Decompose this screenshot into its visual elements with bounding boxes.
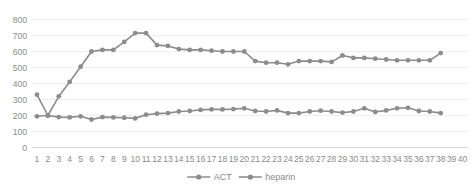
data-point-marker (89, 49, 94, 54)
x-axis-tick-label: 5 (78, 154, 83, 164)
data-point-marker (242, 49, 247, 54)
data-point-marker (35, 114, 40, 119)
data-point-marker (427, 109, 432, 114)
line-chart: 0100200300400500600700800 12345678910111… (0, 0, 476, 194)
data-point-marker (220, 49, 225, 54)
data-point-marker (111, 48, 116, 53)
x-axis-tick-label: 12 (152, 154, 162, 164)
x-axis-tick-label: 34 (392, 154, 402, 164)
data-point-marker (133, 116, 138, 121)
x-axis-tick-label: 15 (185, 154, 195, 164)
x-axis-tick-label: 26 (305, 154, 315, 164)
data-point-marker (406, 58, 411, 63)
series-line (37, 33, 441, 115)
data-point-marker (220, 107, 225, 112)
x-axis-tick-label: 18 (218, 154, 228, 164)
data-point-marker (122, 115, 127, 120)
x-axis-tick-label: 1 (35, 154, 40, 164)
data-point-marker (45, 113, 50, 118)
y-axis-tick-label: 700 (13, 31, 27, 41)
data-point-marker (231, 107, 236, 112)
series-heparin (35, 105, 444, 121)
gridlines (32, 20, 469, 148)
x-axis-tick-label: 23 (272, 154, 282, 164)
data-point-marker (438, 51, 443, 56)
data-point-marker (406, 105, 411, 110)
data-point-marker (427, 58, 432, 63)
data-point-marker (89, 117, 94, 122)
series-line (37, 108, 441, 120)
data-point-marker (187, 109, 192, 114)
legend-marker-icon (196, 174, 201, 179)
x-axis-tick-label: 38 (436, 154, 446, 164)
data-point-marker (329, 109, 334, 114)
data-point-marker (416, 58, 421, 63)
data-point-marker (133, 31, 138, 36)
x-axis-tick-label: 14 (174, 154, 184, 164)
data-point-marker (384, 57, 389, 62)
x-axis-tick-label: 16 (196, 154, 206, 164)
series-act (35, 31, 444, 118)
data-point-marker (155, 43, 160, 48)
data-point-marker (318, 59, 323, 64)
y-axis-tick-labels: 0100200300400500600700800 (13, 15, 27, 153)
data-point-marker (176, 109, 181, 114)
x-axis-tick-label: 6 (89, 154, 94, 164)
data-point-marker (166, 111, 171, 116)
data-point-marker (340, 110, 345, 115)
x-axis-tick-label: 33 (381, 154, 391, 164)
y-axis-tick-label: 600 (13, 47, 27, 57)
x-axis-tick-label: 7 (100, 154, 105, 164)
x-axis-tick-label: 32 (371, 154, 381, 164)
data-point-marker (187, 48, 192, 53)
data-point-marker (307, 59, 312, 64)
x-axis-tick-label: 19 (229, 154, 239, 164)
legend-item-heparin[interactable]: heparin (239, 172, 295, 182)
x-axis-tick-label: 39 (447, 154, 457, 164)
data-point-marker (155, 111, 160, 116)
x-axis-tick-labels: 1234567891011121314151617181920212223242… (35, 154, 468, 164)
x-axis-tick-label: 25 (294, 154, 304, 164)
y-axis-tick-label: 500 (13, 63, 27, 73)
x-axis-tick-label: 2 (46, 154, 51, 164)
data-point-marker (296, 59, 301, 64)
data-point-marker (286, 62, 291, 67)
data-point-marker (166, 44, 171, 49)
x-axis-tick-label: 8 (111, 154, 116, 164)
x-axis-tick-label: 36 (414, 154, 424, 164)
x-axis-tick-label: 9 (122, 154, 127, 164)
data-point-marker (307, 109, 312, 114)
x-axis-tick-label: 4 (67, 154, 72, 164)
data-point-marker (144, 112, 149, 117)
legend-label: heparin (265, 172, 295, 182)
legend-item-act[interactable]: ACT (188, 172, 233, 182)
data-point-marker (438, 111, 443, 116)
data-point-marker (122, 40, 127, 45)
data-point-marker (231, 49, 236, 54)
x-axis-tick-label: 21 (250, 154, 260, 164)
x-axis-tick-label: 24 (283, 154, 293, 164)
y-axis-tick-label: 400 (13, 79, 27, 89)
x-axis-tick-label: 37 (425, 154, 435, 164)
data-point-marker (264, 109, 269, 114)
data-point-marker (318, 108, 323, 113)
y-axis-tick-label: 300 (13, 95, 27, 105)
x-axis-tick-label: 28 (327, 154, 337, 164)
y-axis-tick-label: 100 (13, 127, 27, 137)
data-point-marker (253, 59, 258, 64)
data-point-marker (286, 111, 291, 116)
data-point-marker (209, 48, 214, 53)
data-point-marker (242, 106, 247, 111)
chart-legend: ACTheparin (188, 172, 296, 182)
legend-label: ACT (214, 172, 233, 182)
data-point-marker (78, 64, 83, 69)
data-point-marker (264, 60, 269, 65)
data-point-marker (67, 115, 72, 120)
data-point-marker (362, 106, 367, 111)
data-point-marker (340, 53, 345, 58)
chart-canvas: 0100200300400500600700800 12345678910111… (0, 0, 476, 194)
data-point-marker (198, 48, 203, 53)
data-point-marker (176, 47, 181, 52)
data-point-marker (351, 109, 356, 114)
y-axis-tick-label: 0 (22, 143, 27, 153)
